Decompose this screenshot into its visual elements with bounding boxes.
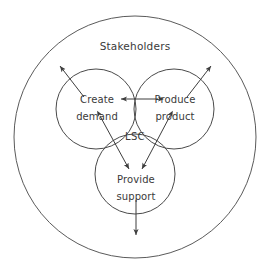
arrow-create-demand-outward bbox=[60, 66, 84, 97]
arrow-produce-product-to-provide-support bbox=[142, 116, 170, 169]
diagram-canvas: Stakeholders Create demand Produce produ… bbox=[0, 0, 267, 277]
label-create-demand-line2: demand bbox=[76, 111, 118, 122]
arrow-produce-product-outward bbox=[187, 66, 211, 97]
label-produce-product-line2: product bbox=[155, 111, 194, 122]
label-stakeholders: Stakeholders bbox=[100, 40, 171, 52]
label-provide-support-line1: Provide bbox=[117, 174, 155, 185]
label-provide-support-line2: support bbox=[116, 191, 155, 202]
circle-produce-product bbox=[134, 69, 214, 149]
circle-create-demand bbox=[56, 69, 136, 149]
label-lsc-center: LSC bbox=[125, 131, 145, 142]
arrow-create-demand-to-provide-support bbox=[100, 116, 129, 169]
label-create-demand-line1: Create bbox=[80, 94, 114, 105]
label-produce-product-line1: Produce bbox=[155, 94, 196, 105]
venn-diagram: Stakeholders Create demand Produce produ… bbox=[0, 0, 267, 277]
